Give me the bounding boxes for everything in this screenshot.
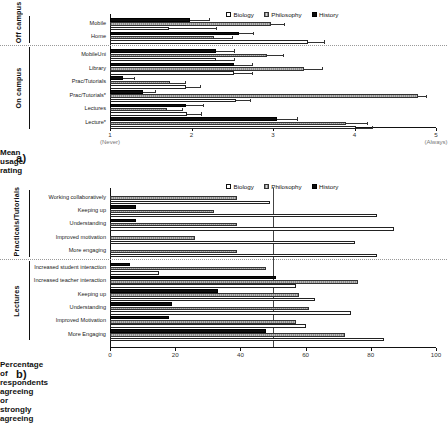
error-bar (216, 60, 234, 61)
category-label: Library (0, 65, 106, 71)
history-swatch-icon (312, 12, 317, 17)
category-label: More engaging (0, 247, 106, 253)
bar-history (110, 302, 172, 306)
legend-item-biology: Biology (226, 11, 254, 18)
category-label: MobileUni (0, 51, 106, 57)
error-bar (356, 128, 372, 129)
bar-history (110, 289, 218, 293)
bar-biology (110, 254, 377, 258)
category-label: Improved motivation (0, 234, 106, 240)
error-bar (143, 92, 155, 93)
error-bar-cap (367, 122, 368, 125)
category-label: Increased student interaction (0, 264, 106, 270)
x-tick-label: 4 (353, 131, 356, 138)
error-bar-cap (232, 36, 233, 39)
error-bar-cap (182, 108, 183, 111)
x-tick-label: 40 (237, 351, 244, 358)
group-bracket (29, 47, 30, 129)
bar-history (110, 263, 130, 267)
error-bar-cap (134, 77, 135, 80)
error-bar-cap (253, 32, 254, 35)
category-label: Lecture* (0, 119, 106, 125)
bar-biology (110, 271, 159, 275)
error-bar (186, 105, 203, 106)
bar-biology (110, 58, 216, 62)
x-tick-label: 0 (108, 351, 111, 358)
group-label: Lectures (12, 261, 28, 341)
legend-label: Biology (234, 11, 254, 18)
x-tick-annotation: (Always) (424, 139, 447, 145)
bar-philosophy (110, 81, 170, 85)
panel-a-mean-usage-rating: a) BiologyPhilosophyHistory 1(Never)2345… (0, 0, 447, 178)
bar-philosophy (110, 293, 299, 297)
error-bar-cap (209, 18, 210, 21)
legend-label: History (319, 183, 338, 190)
bar-history (110, 316, 169, 320)
bar-biology (110, 241, 355, 245)
error-bar-cap (372, 126, 373, 129)
legend-item-philosophy: Philosophy (264, 183, 302, 190)
legend-item-philosophy: Philosophy (264, 11, 302, 18)
x-tick-label: 80 (367, 351, 374, 358)
group-separator (0, 259, 447, 260)
group-bracket (29, 261, 30, 341)
category-label: Working collaboratively (0, 194, 106, 200)
bar-biology (110, 99, 236, 103)
error-bar-cap (155, 90, 156, 93)
category-label: Mobile (0, 20, 106, 26)
legend-item-history: History (312, 183, 339, 190)
bar-history (110, 32, 239, 36)
error-bar-cap (234, 58, 235, 61)
error-bar-cap (284, 23, 285, 26)
bar-philosophy (110, 223, 237, 227)
category-label: Prac/Tutorials* (0, 92, 106, 98)
bar-history (110, 104, 186, 108)
x-tick-label: 100 (431, 351, 441, 358)
bar-biology (110, 27, 169, 31)
error-bar-cap (322, 67, 323, 70)
error-bar-cap (201, 112, 202, 115)
legend-label: Biology (234, 183, 254, 190)
bar-philosophy (110, 236, 195, 240)
philosophy-swatch-icon (264, 184, 269, 189)
bar-history (110, 63, 234, 67)
group-separator (0, 45, 447, 46)
biology-swatch-icon (226, 12, 231, 17)
category-label: Keeping up (0, 291, 106, 297)
bar-philosophy (110, 67, 304, 71)
bar-history (110, 90, 143, 94)
error-bar (239, 33, 254, 34)
x-tick-label: 2 (190, 131, 193, 138)
x-tick-label: 20 (172, 351, 179, 358)
legend-label: Philosophy (271, 183, 301, 190)
bar-biology (110, 40, 308, 44)
x-axis-line (110, 347, 436, 348)
bar-biology (110, 298, 315, 302)
bar-biology (110, 201, 270, 205)
bar-biology (110, 311, 351, 315)
x-tick-label: 1 (108, 131, 111, 138)
legend-item-biology: Biology (226, 183, 254, 190)
error-bar (267, 55, 282, 56)
bar-history (110, 276, 276, 280)
error-bar (123, 78, 134, 79)
bar-history (110, 117, 277, 121)
bar-history (110, 18, 190, 22)
category-label: Prac/Tutorials (0, 78, 106, 84)
error-bar (346, 123, 366, 124)
history-swatch-icon (312, 184, 317, 189)
error-bar-cap (216, 27, 217, 30)
bar-philosophy (110, 122, 346, 126)
x-tick-label: 5 (434, 131, 437, 138)
bar-biology (110, 214, 377, 218)
legend-item-history: History (312, 11, 339, 18)
bar-biology (110, 324, 306, 328)
error-bar (308, 42, 323, 43)
bar-history (110, 219, 136, 223)
error-bar-cap (234, 49, 235, 52)
error-bar-cap (203, 104, 204, 107)
error-bar-cap (324, 40, 325, 43)
bar-history (110, 329, 266, 333)
bar-biology (110, 338, 384, 342)
bar-biology (110, 227, 394, 231)
